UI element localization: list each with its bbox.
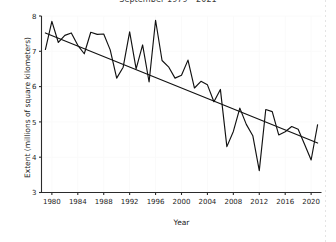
- x-tick-label: 2016: [276, 198, 294, 206]
- y-tick-labels: 345678: [32, 13, 41, 198]
- y-tick-label: 7: [32, 48, 36, 56]
- x-tick-label: 1996: [147, 198, 165, 206]
- x-tick-label: 2012: [250, 198, 268, 206]
- sea-ice-extent-chart: September 1979 - 2021 Extent (millions o…: [0, 0, 336, 242]
- x-tick-label: 1988: [95, 198, 113, 206]
- y-tick-label: 5: [32, 119, 36, 127]
- x-tick-label: 2020: [302, 198, 320, 206]
- plot-area: 345678 198019841988199219962000200420082…: [0, 0, 336, 242]
- x-tick-label: 2008: [224, 198, 242, 206]
- y-tick-label: 3: [32, 189, 36, 197]
- x-tick-label: 1992: [121, 198, 139, 206]
- y-tick-label: 6: [32, 83, 37, 91]
- x-tick-label: 1980: [43, 198, 61, 206]
- gridlines: [42, 16, 322, 193]
- x-tick-labels: 1980198419881992199620002004200820122016…: [43, 193, 320, 206]
- y-tick-label: 4: [32, 154, 37, 162]
- y-tick-label: 8: [32, 13, 36, 21]
- x-tick-label: 2004: [199, 198, 217, 206]
- x-tick-label: 1984: [69, 198, 87, 206]
- x-tick-label: 2000: [173, 198, 191, 206]
